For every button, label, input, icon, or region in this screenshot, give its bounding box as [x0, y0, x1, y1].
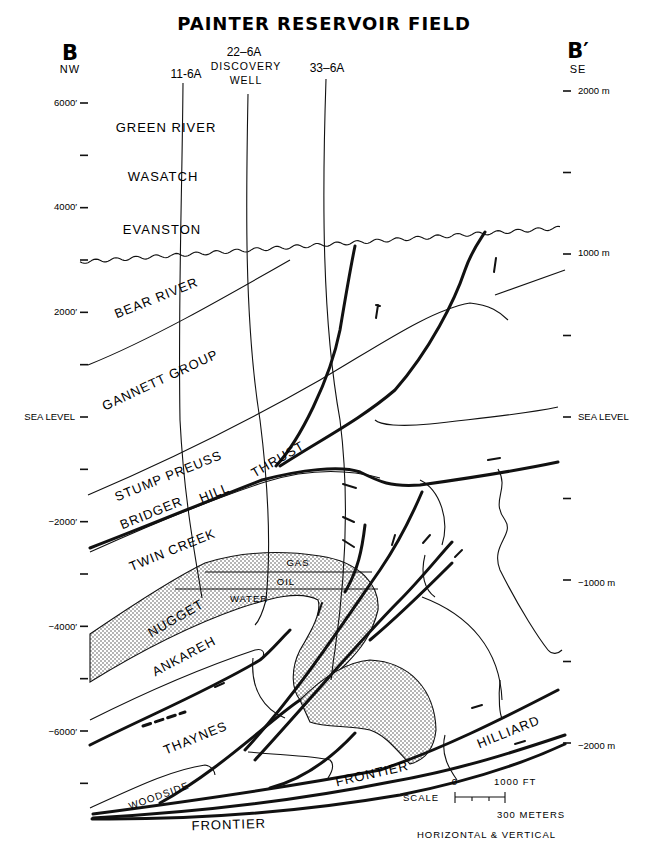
- right-axis-label-1000m: 1000 m: [578, 247, 610, 258]
- fault-inner-4: [370, 563, 452, 640]
- left-axis-label-4000: 4000′: [54, 201, 77, 212]
- scale-meters-label: 300 METERS: [497, 809, 565, 820]
- fluid-label-gas: GAS: [286, 557, 309, 568]
- formation-label-green-river: GREEN RIVER: [116, 120, 217, 135]
- fault-arrow-4: [343, 517, 354, 522]
- scale-zero: 0: [452, 776, 458, 787]
- well-label-33-6a: 33–6A: [310, 61, 345, 75]
- formation-label-thaynes: THAYNES: [161, 718, 229, 757]
- fluid-label-water: WATER: [230, 593, 268, 604]
- contact-right-fold-outer: [422, 597, 502, 700]
- left-axis-label-minus-2000: −2000′: [49, 516, 78, 527]
- right-depth-axis: 2000 m 1000 m SEA LEVEL −1000 m −2000 m: [563, 85, 629, 751]
- formation-label-gannett-group: GANNETT GROUP: [100, 346, 221, 413]
- fault-arrow-11: [472, 705, 482, 708]
- right-axis-label-minus-2000m: −2000 m: [578, 740, 615, 751]
- fault-label-hill: HILL: [197, 480, 232, 506]
- section-end-left-label: B: [62, 41, 78, 65]
- scale-feet-label: 1000 FT: [494, 776, 536, 787]
- formation-label-bear-river: BEAR RIVER: [112, 274, 200, 321]
- contact-far-right-wavy: [498, 469, 562, 653]
- fault-arrow-7: [423, 535, 430, 543]
- scale-bar-ruler: [455, 792, 505, 803]
- section-end-right-direction: SE: [570, 63, 587, 75]
- contact-right-upper: [495, 270, 565, 295]
- fault-arrow-9: [488, 458, 500, 460]
- left-axis-label-6000: 6000′: [54, 97, 77, 108]
- cross-section-diagram: PAINTER RESERVOIR FIELD B NW B′ SE 11-6A…: [0, 0, 648, 856]
- fault-arrow-6: [392, 535, 395, 545]
- contact-right-gannett: [375, 407, 558, 425]
- left-axis-label-minus-6000: −6000′: [49, 726, 78, 737]
- fault-arrow-8: [455, 550, 462, 557]
- right-axis-label-2000m: 2000 m: [578, 85, 610, 96]
- fault-thaynes-dashed: [143, 712, 185, 726]
- diagram-title: PAINTER RESERVOIR FIELD: [177, 13, 471, 34]
- fault-arrow-2: [494, 258, 496, 272]
- fault-arrow-1: [376, 305, 380, 318]
- left-axis-label-2000: 2000′: [54, 306, 77, 317]
- contact-right-fold-inner: [420, 480, 445, 545]
- left-axis-ticks: [80, 103, 88, 783]
- well-note-well: WELL: [230, 74, 263, 86]
- fault-upper-right-splay: [280, 232, 485, 466]
- right-axis-label-sea-level: SEA LEVEL: [578, 411, 629, 422]
- left-depth-axis: 6000′ 4000′ 2000′ SEA LEVEL −2000′ −4000…: [24, 97, 88, 783]
- right-axis-ticks: [563, 91, 571, 743]
- contact-gannett-stump: [88, 303, 508, 495]
- scale-bar: SCALE 0 1000 FT 300 METERS HORIZONTAL & …: [403, 776, 565, 840]
- fault-arrow-12: [515, 741, 525, 744]
- well-note-discovery: DISCOVERY: [211, 60, 282, 72]
- left-axis-label-minus-4000: −4000′: [49, 621, 78, 632]
- left-axis-label-sea-level: SEA LEVEL: [24, 411, 75, 422]
- fluid-label-oil: OIL: [277, 576, 295, 587]
- scale-note: HORIZONTAL & VERTICAL: [417, 829, 556, 840]
- formation-label-evanston: EVANSTON: [123, 222, 201, 237]
- well-path-22-6a: [247, 94, 269, 625]
- formation-label-woodside: WOODSIDE: [127, 780, 190, 812]
- formation-label-wasatch: WASATCH: [128, 169, 199, 184]
- well-label-22-6a: 22–6A: [227, 45, 262, 59]
- well-path-11-6a: [179, 83, 202, 598]
- formation-label-frontier-lower: FRONTIER: [191, 816, 266, 834]
- section-end-right-label: B′: [567, 39, 589, 63]
- right-axis-label-minus-1000m: −1000 m: [578, 577, 615, 588]
- section-end-left-direction: NW: [60, 63, 80, 75]
- scale-label: SCALE: [403, 792, 439, 803]
- fault-upper-left-splay: [276, 246, 355, 466]
- well-label-11-6a: 11-6A: [170, 67, 201, 81]
